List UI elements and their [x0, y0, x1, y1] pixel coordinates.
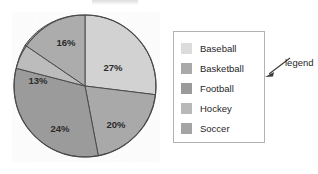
legend-item-baseball: Baseball	[181, 38, 264, 58]
legend-label-football: Football	[200, 83, 234, 94]
pie-label-soccer: 16%	[56, 37, 76, 48]
pie-label-baseball: 27%	[103, 62, 123, 73]
legend-item-football: Football	[181, 78, 264, 98]
legend-swatch-hockey	[181, 103, 192, 114]
legend-item-basketball: Basketball	[181, 58, 264, 78]
legend-swatch-basketball	[181, 63, 192, 74]
legend-item-hockey: Hockey	[181, 98, 264, 118]
legend: Baseball Basketball Football Hockey Socc…	[173, 31, 265, 143]
legend-label-hockey: Hockey	[200, 103, 232, 114]
pie-svg: 27% 20% 24% 13% 16%	[12, 12, 160, 162]
pie-chart-figure: 27% 20% 24% 13% 16% Baseball Basketball …	[0, 0, 318, 174]
cropped-title-remnant	[92, 0, 138, 5]
legend-label-basketball: Basketball	[200, 63, 244, 74]
pie-label-basketball: 20%	[106, 119, 126, 130]
legend-label-baseball: Baseball	[200, 43, 236, 54]
pie-label-football: 24%	[50, 123, 70, 134]
pie-slice-baseball	[85, 15, 156, 95]
legend-label-soccer: Soccer	[200, 123, 230, 134]
legend-callout-label: legend	[285, 57, 314, 68]
pie-chart: 27% 20% 24% 13% 16%	[12, 12, 160, 162]
legend-item-soccer: Soccer	[181, 118, 264, 138]
legend-swatch-soccer	[181, 123, 192, 134]
legend-swatch-baseball	[181, 43, 192, 54]
pie-label-hockey: 13%	[28, 75, 48, 86]
legend-swatch-football	[181, 83, 192, 94]
